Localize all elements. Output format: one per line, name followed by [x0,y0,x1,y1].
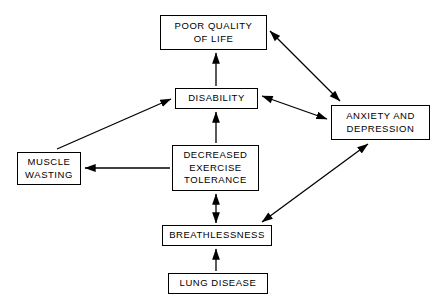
node-label: LUNG DISEASE [180,277,257,290]
node-label: DISABILITY [188,92,245,105]
flow-diagram: POOR QUALITY OF LIFE DISABILITY ANXIETY … [0,0,436,301]
edge-disability-and-anxiety-depression [262,96,327,119]
node-label: ANXIETY AND DEPRESSION [346,110,415,135]
node-decreased-exercise-tolerance: DECREASED EXERCISE TOLERANCE [172,145,259,191]
edge-breathlessness-and-anxiety-depression [262,144,368,222]
node-breathlessness: BREATHLESSNESS [162,225,272,246]
edge-poor-quality-of-life-and-anxiety-depression [270,31,340,101]
node-label: MUSCLE WASTING [25,156,73,181]
node-anxiety-and-depression: ANXIETY AND DEPRESSION [331,105,430,140]
edge-muscle-wasting-to-disability [57,99,171,149]
node-label: POOR QUALITY OF LIFE [175,20,253,45]
node-disability: DISABILITY [175,88,258,109]
node-lung-disease: LUNG DISEASE [168,273,268,294]
node-muscle-wasting: MUSCLE WASTING [17,152,81,185]
node-poor-quality-of-life: POOR QUALITY OF LIFE [160,15,267,50]
node-label: BREATHLESSNESS [169,229,265,242]
node-label: DECREASED EXERCISE TOLERANCE [183,149,247,187]
